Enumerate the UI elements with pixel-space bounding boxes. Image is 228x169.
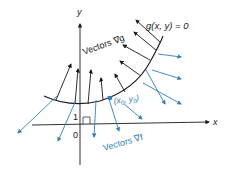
y-axis-label: y [76, 7, 82, 17]
grad-g-vectors [56, 20, 160, 104]
diagram-svg: y x 1 0 g(x, y) = 0 Vectors ∇g Vectors ∇… [0, 0, 228, 169]
grad-f-label: Vectors ∇f [102, 132, 145, 153]
x-axis-label: x [212, 117, 218, 127]
x-axis [32, 122, 209, 125]
curve-label: g(x, y) = 0 [146, 20, 189, 31]
tick-label-one: 1 [73, 112, 78, 122]
tick-label-zero: 0 [73, 130, 78, 140]
right-angle-marker [83, 117, 90, 124]
grad-g-label: Vectors ∇g [81, 33, 125, 57]
lagrange-diagram: y x 1 0 g(x, y) = 0 Vectors ∇g Vectors ∇… [0, 0, 228, 169]
grad-f-vectors [18, 54, 181, 141]
tangency-point [108, 96, 113, 101]
point-label: (x0, y0) [113, 92, 140, 106]
